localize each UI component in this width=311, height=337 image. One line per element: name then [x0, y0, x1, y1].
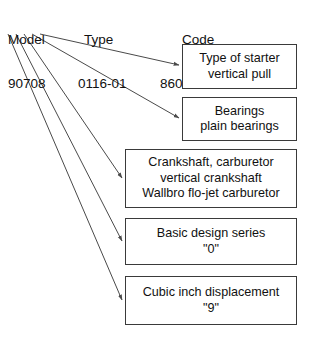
header-value-model: 90708	[8, 77, 46, 92]
header-field-type: Type 0116-01	[78, 4, 127, 120]
header-label-model: Model	[8, 33, 46, 48]
callout-line: Type of starter	[199, 51, 280, 67]
header-label-type: Type	[84, 33, 127, 48]
callout-box-crankshaft-carburetor: Crankshaft, carburetor vertical cranksha…	[125, 149, 297, 208]
callout-line: Basic design series	[157, 226, 266, 242]
callout-line: Cubic inch displacement	[143, 285, 280, 301]
callout-line: "9"	[203, 301, 219, 317]
callout-box-type-of-starter: Type of starter vertical pull	[182, 44, 297, 89]
callout-line: vertical pull	[208, 67, 271, 83]
callout-line: Bearings	[215, 104, 265, 120]
callout-line: vertical crankshaft	[160, 171, 262, 187]
callout-line: plain bearings	[200, 119, 278, 135]
header-value-type: 0116-01	[78, 77, 127, 92]
callout-box-cubic-inch-displacement: Cubic inch displacement "9"	[125, 276, 297, 325]
callout-line: "0"	[203, 242, 219, 258]
callout-box-bearings: Bearings plain bearings	[182, 97, 297, 141]
callout-line: Crankshaft, carburetor	[148, 155, 273, 171]
callout-line: Wallbro flo-jet carburetor	[142, 186, 279, 202]
callout-box-basic-design-series: Basic design series "0"	[125, 218, 297, 265]
header-field-model: Model 90708	[8, 4, 46, 120]
model-number-breakdown-diagram: Model 90708 Type 0116-01 Code 86022004 T…	[0, 0, 311, 337]
